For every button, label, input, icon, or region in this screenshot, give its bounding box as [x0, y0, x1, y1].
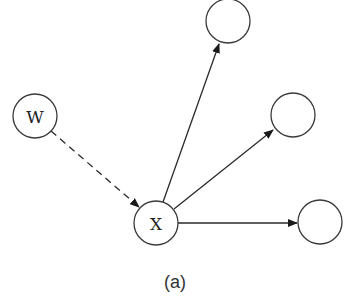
node-top-circle: [206, 0, 250, 43]
causal-graph: W X: [0, 0, 350, 305]
node-x: X: [134, 201, 178, 245]
node-mid-circle: [271, 93, 315, 137]
node-top: [206, 0, 250, 43]
node-w-label: W: [26, 107, 44, 127]
figure-caption: (a): [0, 272, 350, 293]
edge-x-to-top: [163, 44, 219, 202]
node-mid: [271, 93, 315, 137]
node-w: W: [13, 94, 57, 138]
node-x-label: X: [150, 214, 163, 234]
node-bottom-circle: [298, 200, 342, 244]
edge-x-to-mid: [174, 130, 273, 209]
edge-w-to-x: [51, 131, 139, 207]
node-bottom: [298, 200, 342, 244]
